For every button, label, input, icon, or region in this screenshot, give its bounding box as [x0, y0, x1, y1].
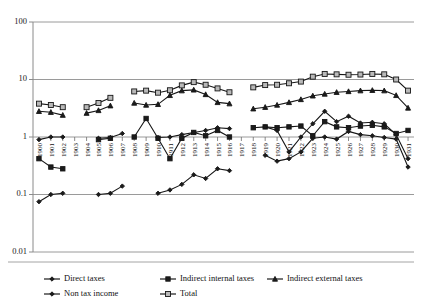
x-axis-label: 1912: [179, 143, 187, 158]
x-axis-label: 1920: [274, 143, 282, 158]
chart-container: 0.010.1110100190019011902190319041905190…: [0, 0, 422, 306]
data-point-open-square: [382, 72, 387, 77]
data-point-triangle: [179, 88, 184, 93]
data-point-diamond: [168, 135, 172, 139]
series-indirect-internal-taxes: [37, 116, 410, 171]
data-point-triangle: [96, 108, 101, 113]
x-axis-label: 1905: [95, 143, 103, 158]
x-axis-label: 1925: [334, 143, 342, 158]
legend-label: Indirect external taxes: [287, 273, 363, 283]
data-point-diamond: [275, 159, 279, 163]
data-point-square: [227, 135, 231, 139]
data-point-triangle: [108, 103, 113, 108]
data-point-square: [287, 125, 291, 129]
data-point-open-square: [179, 83, 184, 88]
data-point-square: [203, 134, 207, 138]
data-point-triangle: [322, 91, 327, 96]
data-point-square: [168, 156, 172, 160]
y-axis-label: 1: [23, 131, 27, 141]
data-point-square: [334, 125, 338, 129]
data-point-triangle: [60, 113, 65, 118]
data-point-open-square: [166, 292, 171, 297]
data-point-triangle: [132, 100, 137, 105]
data-point-triangle: [36, 109, 41, 114]
data-point-square: [311, 134, 315, 138]
data-point-triangle: [394, 93, 399, 98]
x-axis-label: 1903: [72, 143, 80, 158]
data-point-triangle: [263, 105, 268, 110]
data-point-open-square: [310, 74, 315, 79]
data-point-triangle: [275, 102, 280, 107]
x-axis-label: 1900: [36, 143, 44, 158]
data-point-diamond: [382, 135, 386, 139]
data-point-triangle: [334, 90, 339, 95]
data-point-open-square: [227, 90, 232, 95]
data-point-diamond: [323, 135, 327, 139]
data-point-triangle: [358, 88, 363, 93]
data-point-diamond: [49, 135, 53, 139]
data-point-square: [144, 116, 148, 120]
data-point-open-square: [203, 82, 208, 87]
data-point-triangle: [273, 276, 278, 281]
data-point-open-square: [322, 71, 327, 76]
legend-label: Indirect internal taxes: [180, 273, 254, 283]
data-point-triangle: [215, 100, 220, 105]
data-point-diamond: [37, 137, 41, 141]
data-point-open-square: [36, 101, 41, 106]
legend-item-indirect-internal-taxes: Indirect internal taxes: [160, 273, 254, 283]
data-point-open-square: [286, 81, 291, 86]
data-point-triangle: [227, 101, 232, 106]
data-point-triangle: [310, 93, 315, 98]
data-point-diamond: [358, 132, 362, 136]
data-point-square: [49, 165, 53, 169]
legend-label: Non tax income: [64, 288, 119, 298]
data-point-square: [61, 167, 65, 171]
data-point-square: [166, 277, 170, 281]
data-point-triangle: [84, 111, 89, 116]
y-axis-label: 100: [14, 16, 27, 26]
x-axis-label: 1902: [60, 143, 68, 158]
data-point-diamond: [120, 131, 124, 135]
legend-item-direct-taxes: Direct taxes: [44, 273, 105, 283]
x-axis-label: 1929: [381, 143, 389, 158]
x-axis-label: 1915: [215, 143, 223, 158]
x-axis-label: 1908: [131, 143, 139, 158]
data-point-open-square: [251, 85, 256, 90]
x-axis-label: 1917: [238, 143, 246, 158]
data-point-open-square: [334, 72, 339, 77]
data-point-diamond: [406, 165, 410, 169]
x-axis-label: 1909: [143, 143, 151, 158]
data-point-triangle: [286, 100, 291, 105]
data-point-triangle: [382, 88, 387, 93]
data-point-open-square: [406, 88, 411, 93]
data-point-open-square: [394, 77, 399, 82]
data-point-open-square: [346, 72, 351, 77]
x-axis-label: 1906: [107, 143, 115, 158]
data-point-diamond: [50, 292, 54, 296]
data-point-open-square: [370, 71, 375, 76]
x-axis-label: 1923: [310, 143, 318, 158]
legend-item-indirect-external-taxes: Indirect external taxes: [267, 273, 363, 283]
x-axis-label: 1916: [226, 143, 234, 158]
data-point-square: [132, 135, 136, 139]
legend-label: Direct taxes: [64, 273, 105, 283]
data-point-square: [251, 126, 255, 130]
data-point-diamond: [346, 114, 350, 118]
x-axis-label: 1907: [119, 143, 127, 158]
data-point-triangle: [144, 102, 149, 107]
y-axis-label: 0.1: [16, 188, 27, 198]
x-axis-label: 1904: [84, 143, 92, 158]
x-axis-label: 1901: [48, 143, 56, 158]
data-point-open-square: [108, 95, 113, 100]
series-direct-taxes: [37, 129, 410, 204]
data-point-diamond: [227, 126, 231, 130]
data-point-open-square: [84, 105, 89, 110]
data-point-square: [346, 126, 350, 130]
legend-item-total: Total: [160, 288, 198, 298]
data-point-diamond: [50, 277, 54, 281]
data-point-square: [299, 124, 303, 128]
legend-label: Total: [180, 288, 198, 298]
x-axis-label: 1914: [203, 143, 211, 158]
data-point-diamond: [61, 135, 65, 139]
x-axis-label: 1922: [298, 143, 306, 158]
